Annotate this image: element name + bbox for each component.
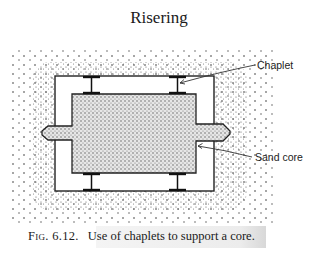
chaplet-label: Chaplet bbox=[257, 59, 293, 71]
sand-core-label: Sand core bbox=[255, 151, 303, 163]
page-header-title: Risering bbox=[0, 8, 318, 28]
figure-number: Fig. 6.12. bbox=[28, 229, 79, 243]
chaplet-diagram: Chaplet Sand core bbox=[0, 40, 318, 225]
figure-caption: Fig. 6.12. Use of chaplets to support a … bbox=[28, 226, 290, 248]
caption-text: Use of chaplets to support a core. bbox=[88, 229, 255, 243]
